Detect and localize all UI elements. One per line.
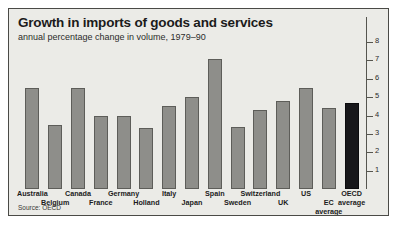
category-slot: Holland: [135, 190, 158, 216]
y-tick-mark: [366, 116, 373, 117]
bar-belgium: [48, 125, 62, 189]
bar-us: [299, 88, 313, 189]
y-axis: 12345678: [366, 42, 389, 189]
bar-australia: [25, 88, 39, 189]
bar-slot: [135, 42, 158, 189]
bar-slot: [89, 42, 112, 189]
category-slot: Canada: [67, 190, 90, 216]
y-tick-label: 7: [375, 54, 379, 63]
y-tick-mark: [366, 152, 373, 153]
category-label: Spain: [205, 190, 225, 198]
bar-oecd-average: [345, 103, 359, 189]
bar-sweden: [231, 127, 245, 189]
bar-slot: [158, 42, 181, 189]
y-tick-label: 3: [375, 128, 379, 137]
bar-slot: [272, 42, 295, 189]
y-tick-mark: [366, 134, 373, 135]
y-tick-label: 4: [375, 110, 379, 119]
category-label: average: [338, 199, 365, 207]
bar-slot: [112, 42, 135, 189]
bar-slot: [249, 42, 272, 189]
category-label: Canada: [65, 190, 91, 198]
category-label: UK: [278, 199, 288, 207]
bar-slot: [21, 42, 44, 189]
category-label: Italy: [162, 190, 176, 198]
plot-area: [21, 42, 363, 189]
category-slot: Italy: [158, 190, 181, 216]
y-tick-mark: [366, 97, 373, 98]
category-label: France: [89, 199, 113, 207]
bar-slot: [295, 42, 318, 189]
bar-ec-average: [322, 108, 336, 189]
chart-header: Growth in imports of goods and services …: [18, 15, 380, 43]
bar-canada: [71, 88, 85, 189]
bar-slot: [203, 42, 226, 189]
y-tick-mark: [366, 60, 373, 61]
category-label: Holland: [133, 199, 159, 207]
category-slot: Belgium: [44, 190, 67, 216]
bar-slot: [67, 42, 90, 189]
category-slot: Japan: [181, 190, 204, 216]
category-slot: ECaverage: [317, 190, 340, 216]
bar-holland: [139, 128, 153, 189]
y-tick-mark: [366, 42, 373, 43]
bar-slot: [181, 42, 204, 189]
bar-france: [94, 116, 108, 190]
source-note: Source: OECD: [18, 204, 61, 212]
category-slot: Switzerland: [249, 190, 272, 216]
bar-uk: [276, 101, 290, 189]
y-tick-label: 2: [375, 146, 379, 155]
category-label: Japan: [182, 199, 203, 207]
bar-japan: [185, 97, 199, 189]
category-label: Sweden: [224, 199, 251, 207]
category-slot: UK: [272, 190, 295, 216]
bar-slot: [317, 42, 340, 189]
category-slot: Germany: [112, 190, 135, 216]
y-tick-mark: [366, 171, 373, 172]
bar-germany: [117, 116, 131, 190]
category-label: US: [301, 190, 311, 198]
category-slot: Spain: [203, 190, 226, 216]
bar-spain: [208, 59, 222, 189]
category-slot: US: [295, 190, 318, 216]
y-tick-mark: [366, 79, 373, 80]
category-label: EC: [324, 199, 334, 207]
bar-series: [21, 42, 363, 189]
bar-slot: [44, 42, 67, 189]
bar-slot: [226, 42, 249, 189]
bar-switzerland: [253, 110, 267, 189]
y-tick-label: 6: [375, 73, 379, 82]
page-title: Growth in imports of goods and services: [18, 15, 380, 30]
category-labels: AustraliaBelgiumCanadaFranceGermanyHolla…: [21, 190, 363, 216]
category-slot: OECDaverage: [340, 190, 363, 216]
y-tick-label: 8: [375, 36, 379, 45]
chart-figure: Growth in imports of goods and services …: [8, 8, 389, 216]
y-tick-label: 5: [375, 91, 379, 100]
bar-slot: [340, 42, 363, 189]
y-tick-label: 1: [375, 165, 379, 174]
category-label: average: [315, 208, 342, 216]
bar-italy: [162, 106, 176, 189]
category-label: OECD: [341, 190, 362, 198]
